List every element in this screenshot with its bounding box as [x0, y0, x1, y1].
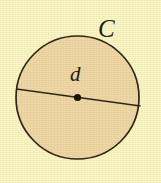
figure-canvas	[0, 0, 161, 183]
circle-diameter-figure: C d	[0, 0, 161, 183]
diameter-label: d	[70, 64, 81, 85]
circumference-label: C	[98, 16, 115, 41]
center-dot	[74, 94, 81, 101]
